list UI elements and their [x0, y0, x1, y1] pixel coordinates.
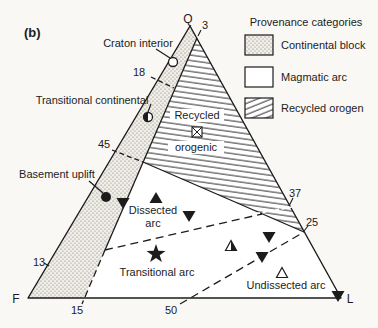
apex-label-q: Q: [183, 12, 192, 26]
label-transitional-arc: Transitional arc: [120, 266, 195, 278]
legend-label-continental-block: Continental block: [281, 39, 366, 51]
legend-swatch-magmatic-arc: [245, 67, 273, 87]
tick-45: 45: [98, 138, 110, 150]
corner-label-f: F: [12, 292, 19, 306]
marker-circle-half: [144, 113, 153, 122]
figure-panel: (b) Q F L 3 18 45 13 15 50 37 25 Craton …: [0, 0, 378, 328]
label-dissected: Dissected: [129, 204, 177, 216]
label-transitional-continental: Transitional continental: [36, 94, 149, 106]
legend-swatch-recycled-orogen: [245, 98, 273, 118]
ternary-qfl-diagram: (b) Q F L 3 18 45 13 15 50 37 25 Craton …: [0, 0, 378, 328]
legend-swatch-continental-block: [245, 35, 273, 55]
tick-25: 25: [306, 216, 318, 228]
legend-label-magmatic-arc: Magmatic arc: [281, 71, 348, 83]
legend-title: Provenance categories: [250, 16, 363, 28]
tick-37: 37: [289, 187, 301, 199]
label-dissected-arc: arc: [145, 217, 161, 229]
panel-label: (b): [24, 25, 41, 40]
tick-mark-3: [198, 30, 201, 36]
corner-label-l: L: [347, 292, 354, 306]
tick-mark-37: [289, 198, 293, 206]
label-orogenic: orogenic: [175, 141, 218, 153]
marker-circle-open: [169, 58, 178, 67]
label-craton-interior: Craton interior: [103, 37, 173, 49]
craton-interior-leader: [156, 49, 170, 58]
label-recycled: Recycled: [174, 109, 219, 121]
tick-18: 18: [133, 66, 145, 78]
label-undissected-arc: Undissected arc: [247, 279, 326, 291]
marker-square-x: [192, 127, 202, 137]
tick-13: 13: [33, 256, 45, 268]
legend-label-recycled-orogen: Recycled orogen: [281, 102, 364, 114]
label-basement-uplift: Basement uplift: [19, 168, 95, 180]
tick-50: 50: [165, 304, 177, 316]
tick-3: 3: [202, 19, 208, 31]
tick-15: 15: [71, 304, 83, 316]
marker-circle-filled: [101, 192, 111, 202]
